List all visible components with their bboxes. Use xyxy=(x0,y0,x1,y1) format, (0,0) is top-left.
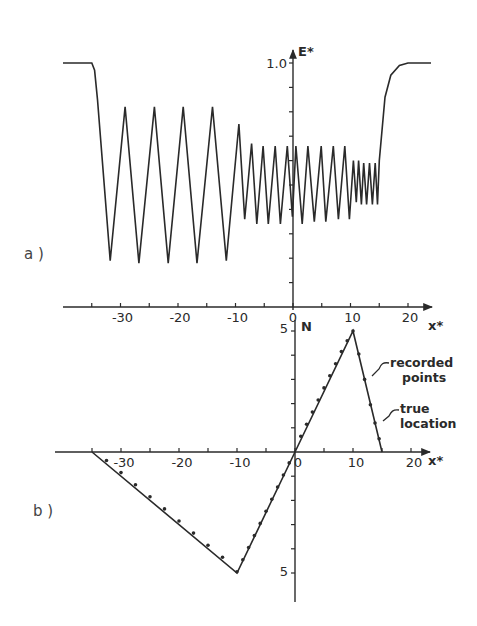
recorded-point xyxy=(369,403,373,407)
recorded-point xyxy=(177,519,181,523)
panel-a-x-axis-label: x* xyxy=(428,318,443,333)
panel-a-y-axis-label: E* xyxy=(298,44,314,59)
x-tick-label: -20 xyxy=(171,455,192,470)
y-tick-label: 1.0 xyxy=(266,56,287,71)
recorded-point xyxy=(287,461,291,465)
x-tick-label: 0 xyxy=(294,455,302,470)
recorded-point xyxy=(134,483,138,487)
panel-b-x-axis-label: x* xyxy=(428,453,443,468)
x-tick-label: 20 xyxy=(402,310,419,325)
recorded-point xyxy=(373,421,377,425)
recorded-point xyxy=(247,546,251,550)
x-tick-label: -20 xyxy=(169,310,190,325)
recorded-point xyxy=(241,558,245,562)
recorded-point xyxy=(345,339,349,343)
recorded-point xyxy=(299,435,303,439)
recorded-points-leader xyxy=(372,363,389,376)
x-tick-label: -10 xyxy=(229,455,250,470)
recorded-point xyxy=(264,510,268,514)
x-tick-label: 10 xyxy=(348,455,365,470)
panel-b: b ) -30-20-100102055 N x* recorded point… xyxy=(33,319,458,602)
recorded-point xyxy=(340,350,344,354)
annotation-recorded: recorded points xyxy=(390,355,458,385)
recorded-point xyxy=(334,362,338,366)
recorded-point xyxy=(357,352,361,356)
panel-b-y-axis-label: N xyxy=(301,319,312,334)
true-location-leader xyxy=(383,410,399,421)
recorded-point xyxy=(305,422,309,426)
recorded-point xyxy=(363,378,367,382)
recorded-point xyxy=(258,522,262,526)
panel-b-tick-labels: -30-20-100102055 xyxy=(113,321,422,579)
recorded-point xyxy=(322,386,326,390)
recorded-point xyxy=(235,570,239,574)
recorded-point xyxy=(206,543,210,547)
recorded-point xyxy=(221,556,225,560)
panel-b-label: b ) xyxy=(33,502,53,520)
recorded-point xyxy=(311,410,315,414)
y-tick-label-bottom: 5 xyxy=(280,564,288,579)
recorded-point xyxy=(270,497,274,501)
recorded-point xyxy=(105,459,109,463)
recorded-point xyxy=(316,398,320,402)
recorded-point xyxy=(276,485,280,489)
recorded-point xyxy=(377,437,381,441)
panel-a-energy-curve xyxy=(63,63,431,263)
annotation-true-location: true location xyxy=(400,401,456,431)
panel-a-label: a ) xyxy=(24,245,44,263)
recorded-point xyxy=(253,534,257,538)
x-tick-label: 20 xyxy=(406,455,423,470)
panel-a: a ) -30-20-10010201.0 E* x* xyxy=(24,44,443,333)
figure: a ) -30-20-10010201.0 E* x* b ) -30-20-1… xyxy=(0,0,477,626)
x-tick-label: -30 xyxy=(113,455,134,470)
recorded-point xyxy=(282,473,286,477)
recorded-point xyxy=(148,495,152,499)
recorded-point xyxy=(351,329,355,333)
x-tick-label: -30 xyxy=(112,310,133,325)
recorded-point xyxy=(192,531,196,535)
y-tick-label-top: 5 xyxy=(280,321,288,336)
recorded-point xyxy=(119,471,123,475)
recorded-point xyxy=(328,374,332,378)
x-tick-label: 10 xyxy=(344,310,361,325)
x-tick-label: -10 xyxy=(227,310,248,325)
recorded-point xyxy=(163,507,167,511)
panel-a-tick-labels: -30-20-10010201.0 xyxy=(112,56,418,325)
x-tick-label: 0 xyxy=(289,310,297,325)
